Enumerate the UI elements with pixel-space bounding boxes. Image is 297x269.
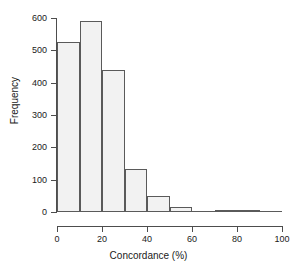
y-tick-label: 600 <box>7 14 47 23</box>
histogram-bar <box>260 211 283 212</box>
histogram-bar <box>125 169 148 212</box>
histogram-bar <box>80 21 103 212</box>
x-tick <box>147 227 148 232</box>
histogram-bar <box>57 42 80 212</box>
x-tick-label: 20 <box>87 235 117 244</box>
plot-area <box>57 18 282 212</box>
y-tick <box>51 212 56 213</box>
y-axis-label: Frequency <box>9 41 20 161</box>
x-tick-label: 100 <box>267 235 297 244</box>
x-tick <box>102 227 103 232</box>
histogram-bar <box>170 207 193 212</box>
x-tick-label: 60 <box>177 235 207 244</box>
y-tick <box>51 115 56 116</box>
x-tick-label: 40 <box>132 235 162 244</box>
histogram-bar <box>147 196 170 212</box>
x-tick-label: 80 <box>222 235 252 244</box>
histogram-chart: 0100200300400500600 020406080100 Concord… <box>0 0 297 269</box>
histogram-bar <box>102 70 125 212</box>
x-tick <box>237 227 238 232</box>
y-tick-label: 100 <box>7 176 47 185</box>
histogram-bar <box>215 210 238 212</box>
x-tick <box>192 227 193 232</box>
y-tick <box>51 147 56 148</box>
y-tick <box>51 180 56 181</box>
y-tick <box>51 83 56 84</box>
x-axis-label: Concordance (%) <box>0 250 297 261</box>
y-tick <box>51 50 56 51</box>
histogram-bar <box>192 211 215 212</box>
y-tick <box>51 18 56 19</box>
x-tick <box>282 227 283 232</box>
histogram-bar <box>237 210 260 212</box>
x-axis-line <box>57 226 283 227</box>
y-tick-label: 0 <box>7 208 47 217</box>
x-tick <box>57 227 58 232</box>
x-tick-label: 0 <box>42 235 72 244</box>
